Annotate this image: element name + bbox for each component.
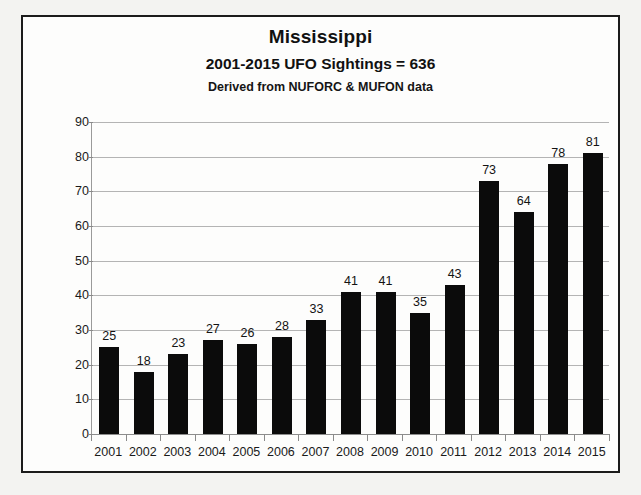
bar-slot[interactable]: 23 (161, 122, 196, 434)
x-axis-tick-label: 2002 (129, 445, 157, 459)
bar[interactable] (99, 347, 119, 434)
plot-area: 251823272628334141354373647881 (91, 122, 609, 434)
x-axis-tick-mark (264, 434, 265, 441)
bar-slot[interactable]: 35 (403, 122, 438, 434)
x-axis-tick-mark (91, 434, 92, 441)
y-axis: 0102030405060708090 (57, 122, 89, 434)
x-axis-tick-mark (298, 434, 299, 441)
bar-value-label: 18 (137, 354, 151, 368)
y-axis-tick-label: 40 (57, 288, 89, 302)
bar-slot[interactable]: 64 (506, 122, 541, 434)
y-axis-tick-label: 80 (57, 150, 89, 164)
chart-subtitle: 2001-2015 UFO Sightings = 636 (23, 52, 618, 76)
bar-series: 251823272628334141354373647881 (92, 122, 609, 434)
bar-slot[interactable]: 73 (472, 122, 507, 434)
x-axis-tick-label: 2009 (371, 445, 399, 459)
x-axis-tick-mark (540, 434, 541, 441)
bar[interactable] (410, 313, 430, 434)
x-axis-tick-label: 2005 (232, 445, 260, 459)
y-axis-tick-label: 10 (57, 392, 89, 406)
bar-slot[interactable]: 27 (196, 122, 231, 434)
bar-value-label: 64 (517, 194, 531, 208)
x-axis-tick-label: 2001 (94, 445, 122, 459)
bar[interactable] (514, 212, 534, 434)
x-axis-tick-label: 2004 (198, 445, 226, 459)
bar-value-label: 26 (240, 326, 254, 340)
bar[interactable] (548, 164, 568, 434)
x-axis-tick-mark (471, 434, 472, 441)
bar-slot[interactable]: 41 (368, 122, 403, 434)
bar-value-label: 35 (413, 295, 427, 309)
plot-wrapper: 0102030405060708090 25182327262833414135… (57, 122, 609, 444)
x-axis-tick-label: 2006 (267, 445, 295, 459)
bar-value-label: 33 (310, 302, 324, 316)
y-axis-tick-label: 70 (57, 184, 89, 198)
bar-value-label: 41 (379, 274, 393, 288)
y-axis-tick-label: 20 (57, 358, 89, 372)
x-axis-tick-label: 2010 (405, 445, 433, 459)
chart-title-block: Mississippi 2001-2015 UFO Sightings = 63… (23, 25, 618, 97)
bar-value-label: 81 (586, 135, 600, 149)
bar-value-label: 73 (482, 163, 496, 177)
x-axis-tick-mark (574, 434, 575, 441)
bar-value-label: 25 (102, 329, 116, 343)
bar-value-label: 43 (448, 267, 462, 281)
bar[interactable] (272, 337, 292, 434)
x-axis-tick-label: 2015 (578, 445, 606, 459)
x-axis-tick-label: 2014 (543, 445, 571, 459)
bar[interactable] (134, 372, 154, 434)
x-axis-tick-mark (195, 434, 196, 441)
x-axis-tick-label: 2007 (302, 445, 330, 459)
bar-value-label: 23 (171, 336, 185, 350)
x-axis-tick-label: 2008 (336, 445, 364, 459)
x-axis-tick-mark (229, 434, 230, 441)
bar-value-label: 28 (275, 319, 289, 333)
x-axis-tick-mark (402, 434, 403, 441)
bar[interactable] (583, 153, 603, 434)
bar-slot[interactable]: 18 (127, 122, 162, 434)
x-axis-tick-mark (126, 434, 127, 441)
x-axis-tick-label: 2003 (163, 445, 191, 459)
bar-value-label: 27 (206, 322, 220, 336)
bar-slot[interactable]: 43 (437, 122, 472, 434)
y-axis-tick-label: 0 (57, 427, 89, 441)
bar-slot[interactable]: 28 (265, 122, 300, 434)
bar[interactable] (341, 292, 361, 434)
x-axis-tick-label: 2013 (509, 445, 537, 459)
x-axis-tick-mark (333, 434, 334, 441)
y-axis-tick-label: 60 (57, 219, 89, 233)
screenshot-canvas: Mississippi 2001-2015 UFO Sightings = 63… (0, 0, 641, 495)
y-axis-tick-label: 30 (57, 323, 89, 337)
x-axis-tick-mark (609, 434, 610, 441)
x-axis-tick-label: 2012 (474, 445, 502, 459)
bar-slot[interactable]: 78 (541, 122, 576, 434)
x-axis: 2001200220032004200520062007200820092010… (91, 434, 609, 474)
bar-slot[interactable]: 41 (334, 122, 369, 434)
y-axis-tick-label: 50 (57, 254, 89, 268)
y-axis-tick-label: 90 (57, 115, 89, 129)
bar-slot[interactable]: 26 (230, 122, 265, 434)
bar[interactable] (445, 285, 465, 434)
bar[interactable] (203, 340, 223, 434)
bar[interactable] (306, 320, 326, 434)
chart-source-note: Derived from NUFORC & MUFON data (23, 77, 618, 97)
x-axis-tick-mark (160, 434, 161, 441)
x-axis-tick-label: 2011 (440, 445, 467, 459)
x-axis-tick-mark (436, 434, 437, 441)
bar[interactable] (479, 181, 499, 434)
x-axis-tick-mark (505, 434, 506, 441)
bar[interactable] (168, 354, 188, 434)
bar-slot[interactable]: 81 (575, 122, 610, 434)
page-title: Mississippi (23, 25, 618, 49)
chart-frame: Mississippi 2001-2015 UFO Sightings = 63… (21, 15, 620, 473)
bar-value-label: 41 (344, 274, 358, 288)
bar[interactable] (237, 344, 257, 434)
bar-value-label: 78 (551, 146, 565, 160)
x-axis-tick-mark (367, 434, 368, 441)
bar-slot[interactable]: 33 (299, 122, 334, 434)
bar[interactable] (376, 292, 396, 434)
bar-slot[interactable]: 25 (92, 122, 127, 434)
